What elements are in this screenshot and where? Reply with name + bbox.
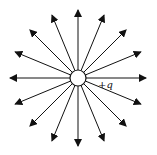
charge-label: +q (98, 79, 113, 90)
field-line-arrow (84, 84, 126, 126)
field-lines-diagram: +q (0, 0, 157, 155)
point-charge (70, 70, 86, 86)
field-line-arrow (30, 30, 72, 72)
field-line-arrow (15, 81, 70, 104)
field-line-arrow (52, 15, 75, 70)
field-line-arrow (30, 84, 72, 126)
field-line-arrow (85, 52, 140, 75)
field-line-arrow (15, 52, 70, 75)
field-line-arrow (81, 15, 104, 70)
field-line-arrow (81, 85, 104, 140)
field-line-arrow (84, 30, 126, 72)
field-line-arrow (85, 81, 140, 104)
field-line-arrow (52, 85, 75, 140)
